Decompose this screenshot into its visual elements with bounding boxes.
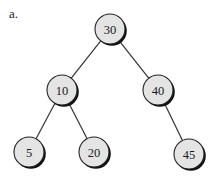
tree-edge: [69, 103, 87, 138]
node-value: 5: [26, 146, 32, 160]
tree-node: 10: [47, 75, 79, 107]
tree-edge: [119, 41, 148, 78]
binary-tree-diagram: 30104052045: [0, 0, 220, 185]
node-value: 10: [56, 84, 69, 98]
node-value: 45: [183, 148, 196, 162]
tree-node: 20: [79, 137, 111, 169]
node-value: 20: [88, 146, 101, 160]
tree-edge: [71, 41, 100, 78]
tree-node: 30: [95, 14, 127, 46]
tree-node: 45: [174, 139, 206, 171]
tree-node: 5: [14, 137, 46, 169]
tree-nodes: 30104052045: [14, 14, 206, 171]
tree-node: 40: [143, 75, 175, 107]
node-value: 30: [104, 23, 117, 37]
tree-edge: [36, 103, 55, 139]
tree-edge: [165, 103, 183, 140]
node-value: 40: [152, 84, 165, 98]
